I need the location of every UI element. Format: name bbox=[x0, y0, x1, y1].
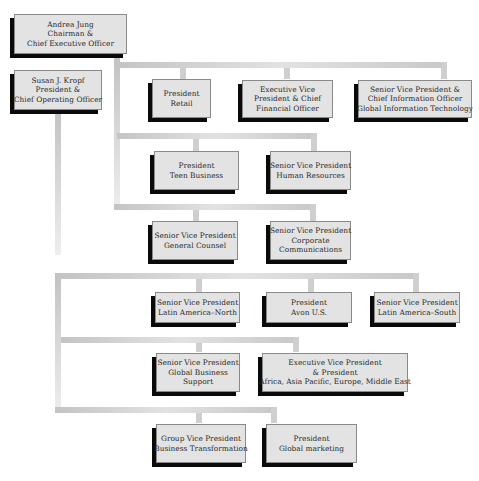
node-line: Support bbox=[157, 377, 238, 387]
connector-evpintl bbox=[293, 337, 299, 352]
node-cio: Senior Vice President &Chief Information… bbox=[358, 80, 472, 118]
node-hr: Senior Vice PresidentHuman Resources bbox=[270, 151, 351, 190]
node-line: President & Chief bbox=[254, 94, 321, 104]
connector-cio bbox=[441, 62, 447, 79]
node-line: Global marketing bbox=[279, 444, 344, 454]
connector-hr bbox=[311, 133, 317, 151]
node-line: Financial Officer bbox=[254, 104, 321, 114]
node-gbs: Senior Vice PresidentGlobal BusinessSupp… bbox=[156, 353, 240, 392]
ceo-row2-line bbox=[117, 133, 317, 139]
node-line: Communications bbox=[270, 245, 351, 255]
node-lasouth: Senior Vice PresidentLatin America–South bbox=[374, 292, 460, 323]
node-teen: PresidentTeen Business bbox=[154, 151, 239, 190]
node-line: Human Resources bbox=[270, 171, 351, 181]
coo-row3-line bbox=[55, 407, 277, 413]
node-line: Chief Information Officer bbox=[357, 94, 473, 104]
node-line: Senior Vice President bbox=[154, 231, 235, 241]
ceo-row1-line bbox=[117, 62, 447, 68]
node-line: Retail bbox=[164, 99, 200, 109]
coo-row2-line bbox=[61, 337, 299, 343]
node-line: Chief Executive Officer bbox=[27, 39, 114, 49]
node-cfo: Executive VicePresident & ChiefFinancial… bbox=[242, 80, 333, 118]
ceo-trunk-line bbox=[114, 54, 120, 210]
node-globalmkt: PresidentGlobal marketing bbox=[266, 424, 357, 463]
node-line: Africa, Asia Pacific, Europe, Middle Eas… bbox=[259, 377, 411, 387]
connector-avonus bbox=[308, 279, 314, 292]
node-gvpbt: Group Vice PresidentBusiness Transformat… bbox=[156, 424, 246, 463]
node-line: Global Business bbox=[157, 368, 238, 378]
connector-lasouth bbox=[413, 273, 419, 292]
connector-gvpbt bbox=[196, 413, 202, 423]
node-line: Susan J. Kropf bbox=[14, 76, 102, 86]
coo-trunk-line bbox=[55, 273, 61, 413]
node-line: Business Transformation bbox=[154, 444, 248, 454]
node-avonus: PresidentAvon U.S. bbox=[266, 292, 352, 323]
node-line: President bbox=[164, 89, 200, 99]
node-line: Andrea Jung bbox=[27, 20, 114, 30]
node-line: President bbox=[291, 298, 327, 308]
node-coo: Susan J. KropfPresident &Chief Operating… bbox=[14, 70, 102, 110]
node-line: Senior Vice President bbox=[270, 161, 351, 171]
node-line: Senior Vice President & bbox=[357, 85, 473, 95]
node-line: Executive Vice bbox=[254, 85, 321, 95]
node-line: President bbox=[170, 161, 223, 171]
node-line: Teen Business bbox=[170, 171, 223, 181]
node-line: Senior Vice President bbox=[157, 358, 238, 368]
node-line: General Counsel bbox=[154, 241, 235, 251]
node-line: Avon U.S. bbox=[291, 308, 327, 318]
node-line: Senior Vice President bbox=[376, 298, 457, 308]
node-line: Senior Vice President bbox=[157, 298, 238, 308]
node-evpintl: Executive Vice President& PresidentAfric… bbox=[262, 353, 408, 392]
connector-gbs bbox=[196, 343, 202, 352]
coo-row1-line bbox=[61, 273, 419, 279]
node-line: & President bbox=[259, 368, 411, 378]
node-line: Corporate bbox=[270, 236, 351, 246]
node-line: Latin America–North bbox=[157, 308, 238, 318]
node-ceo: Andrea JungChairman &Chief Executive Off… bbox=[14, 14, 127, 54]
node-line: Group Vice President bbox=[154, 434, 248, 444]
node-corpcomm: Senior Vice PresidentCorporateCommunicat… bbox=[270, 221, 351, 260]
node-retail: PresidentRetail bbox=[152, 79, 211, 118]
coo-upper-line bbox=[55, 110, 61, 255]
node-line: Latin America–South bbox=[376, 308, 457, 318]
node-line: Executive Vice President bbox=[259, 358, 411, 368]
connector-globalmkt bbox=[271, 407, 277, 423]
connector-gc bbox=[193, 210, 199, 221]
node-line: President bbox=[279, 434, 344, 444]
ceo-row3-line bbox=[114, 204, 316, 210]
node-gc: Senior Vice PresidentGeneral Counsel bbox=[152, 221, 238, 260]
node-line: Global Information Technology bbox=[357, 104, 473, 114]
connector-corpcomm bbox=[310, 204, 316, 221]
node-line: President & bbox=[14, 85, 102, 95]
connector-teen bbox=[193, 139, 199, 151]
node-lanorth: Senior Vice PresidentLatin America–North bbox=[155, 292, 240, 323]
node-line: Senior Vice President bbox=[270, 226, 351, 236]
connector-retail bbox=[180, 68, 186, 79]
connector-lanorth bbox=[196, 279, 202, 292]
node-line: Chairman & bbox=[27, 29, 114, 39]
node-line: Chief Operating Officer bbox=[14, 95, 102, 105]
connector-cfo bbox=[284, 68, 290, 79]
